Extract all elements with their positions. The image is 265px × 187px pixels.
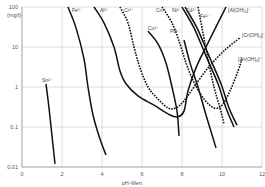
x-tick-label: 8	[180, 171, 183, 177]
annotation-label: Cd²⁺	[186, 7, 197, 13]
annotation-label: [Zn(OH)₄]⁻	[238, 56, 262, 62]
x-tick-label: 6	[140, 171, 143, 177]
y-tick-label: 100	[9, 4, 18, 10]
x-axis-label: pH-Wert	[122, 180, 143, 186]
annotation-label: Sn²⁺	[42, 77, 53, 83]
x-tick-label: 2	[60, 171, 63, 177]
x-tick-label: 4	[100, 171, 103, 177]
y-axis-label: (mg/l)	[7, 12, 21, 18]
series-line-pb2-	[184, 40, 216, 148]
annotation-label: Al³⁺	[100, 7, 109, 13]
solubility-chart: 024681012 1001010.10.01 Sn²⁺Fe³⁺Al³⁺Cr³⁺…	[0, 0, 265, 187]
y-tick-labels: 1001010.10.01	[7, 4, 18, 170]
annotation-label: Pb²⁺	[170, 28, 181, 34]
x-tick-label: 12	[259, 171, 265, 177]
annotation-label: [Al(OH)₄]⁻	[228, 7, 251, 13]
x-tick-label: 0	[20, 171, 23, 177]
series-lines	[46, 7, 242, 164]
annotation-label: Fe³⁺	[72, 7, 83, 13]
y-tick-label: 10	[12, 44, 18, 50]
y-tick-label: 1	[15, 84, 18, 90]
grid	[22, 7, 262, 167]
annotation-label: Cn²⁺	[156, 7, 167, 13]
annotation-label: Cu²⁺	[148, 25, 159, 31]
series-line-sn2-	[46, 84, 55, 164]
series-line-fe3-	[68, 7, 106, 155]
annotations: Sn²⁺Fe³⁺Al³⁺Cr³⁺Cn²⁺Ni²⁺Cd²⁺Fe²⁺Pb²⁺Cu²⁺…	[42, 7, 265, 83]
y-tick-label: 0.1	[10, 124, 18, 130]
y-tick-label: 0.01	[7, 164, 18, 170]
annotation-label: [Cr(OH)₄]⁻	[242, 32, 265, 38]
annotation-label: Fe²⁺	[200, 13, 211, 19]
annotation-label: Ni²⁺	[172, 7, 181, 13]
annotation-label: Cr³⁺	[124, 7, 134, 13]
x-tick-labels: 024681012	[20, 171, 265, 177]
x-tick-label: 10	[219, 171, 225, 177]
